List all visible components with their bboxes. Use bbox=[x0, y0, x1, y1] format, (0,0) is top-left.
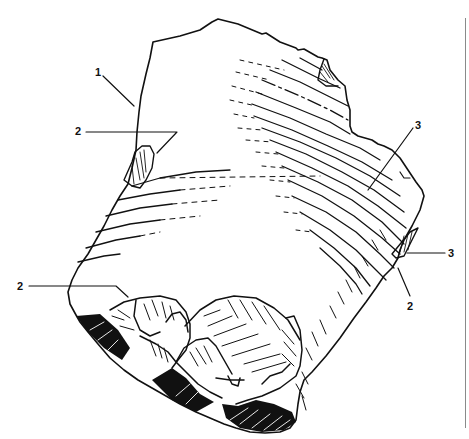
artifact-drawing bbox=[0, 0, 469, 439]
ripple-lines bbox=[252, 58, 406, 294]
label-2-upper-left: 2 bbox=[75, 126, 81, 137]
ripple-dashes bbox=[230, 60, 312, 232]
leader-3-upper bbox=[368, 128, 413, 190]
left-ripples bbox=[78, 170, 230, 262]
leader-lines bbox=[29, 76, 445, 297]
label-1: 1 bbox=[95, 67, 101, 78]
label-2-lower-left: 2 bbox=[17, 281, 23, 292]
label-3-right: 3 bbox=[448, 248, 454, 259]
label-2-right: 2 bbox=[407, 301, 413, 312]
leader-2-lower bbox=[29, 286, 128, 297]
frame-border-line bbox=[465, 18, 466, 428]
bulb-hatching bbox=[112, 230, 386, 410]
leader-2-upper bbox=[86, 132, 177, 153]
label-3-upper-right: 3 bbox=[415, 120, 421, 131]
artifact-diagram: 1 2 3 3 2 2 bbox=[0, 0, 469, 439]
leader-2-right bbox=[398, 268, 410, 296]
leader-1 bbox=[103, 76, 134, 106]
